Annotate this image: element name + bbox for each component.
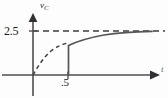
y-tick-label-2point5: 2.5 — [4, 25, 18, 37]
y-axis-subscript: C — [44, 4, 49, 12]
solid-exponential-curve — [69, 31, 153, 45]
capacitor-voltage-figure: vC t 2.5 .5 — [0, 0, 168, 98]
x-tick-label-point5: .5 — [61, 77, 69, 88]
x-axis-label: t — [161, 65, 164, 74]
y-axis-arrowhead — [29, 13, 38, 22]
plot-canvas — [0, 0, 168, 98]
dashed-exponential-curve — [33, 43, 68, 75]
y-axis-label: vC — [40, 1, 49, 12]
x-axis-arrowhead — [150, 71, 160, 80]
